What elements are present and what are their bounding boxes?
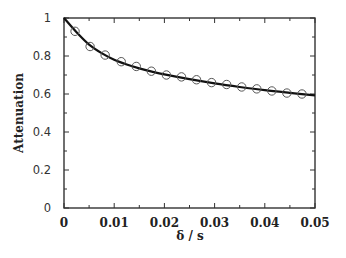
plot-frame	[64, 18, 315, 208]
data-markers	[71, 27, 306, 98]
y-axis-title: Attenuation	[12, 73, 26, 154]
y-tick-label: 0.6	[33, 87, 51, 101]
x-axis-ticks: 00.010.020.030.040.05	[60, 18, 330, 230]
y-tick-label: 1	[44, 11, 51, 25]
x-tick-label: 0.02	[150, 216, 179, 230]
x-tick-label: 0.05	[300, 216, 329, 230]
x-tick-label: 0	[60, 216, 68, 230]
y-tick-label: 0.8	[33, 49, 51, 63]
x-tick-label: 0.01	[100, 216, 129, 230]
x-tick-label: 0.03	[200, 216, 229, 230]
y-tick-label: 0.4	[33, 125, 51, 139]
x-tick-label: 0.04	[250, 216, 279, 230]
y-tick-label: 0	[44, 201, 51, 215]
y-axis-ticks: 00.20.40.60.81	[33, 11, 315, 215]
y-tick-label: 0.2	[33, 163, 51, 177]
plot-border	[64, 18, 315, 208]
attenuation-chart: 00.010.020.030.040.05 00.20.40.60.81 δ /…	[0, 0, 346, 258]
x-axis-title: δ / s	[176, 229, 204, 243]
